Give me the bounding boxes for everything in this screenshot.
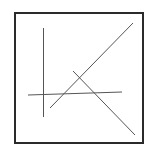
rising-diagonal-line xyxy=(50,23,133,108)
line-diagram xyxy=(0,0,152,156)
descending-diagonal-line xyxy=(73,71,135,135)
horizontal-line xyxy=(28,92,122,95)
